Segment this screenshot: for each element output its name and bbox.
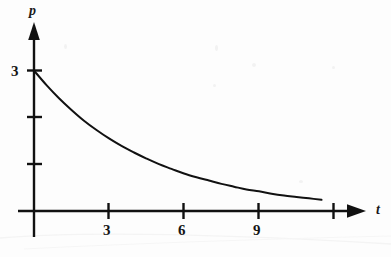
plot-canvas	[0, 0, 391, 257]
faint-scan-lines	[0, 234, 391, 249]
x-tick-label-9: 9	[253, 223, 261, 238]
x-tick-label-3: 3	[103, 223, 111, 238]
graph-figure: p t 3 3 6 9	[0, 0, 391, 257]
x-tick-label-6: 6	[178, 223, 186, 238]
decay-curve	[34, 71, 322, 200]
x-axis	[18, 204, 366, 218]
x-axis-label: t	[376, 203, 380, 217]
y-tick-label-3: 3	[11, 64, 19, 79]
y-axis	[28, 22, 40, 237]
y-axis-label: p	[29, 4, 36, 18]
